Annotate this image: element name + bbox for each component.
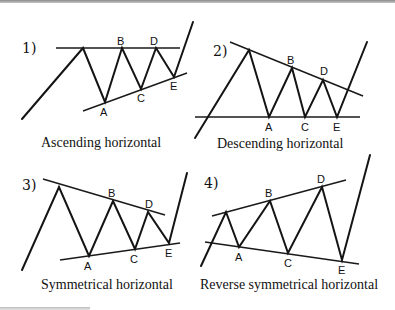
support-line [60, 243, 180, 260]
point-c-label: C [137, 92, 145, 104]
triangle-patterns-diagram: 1) A B C D E Ascending horizontal 2) A B… [0, 0, 395, 310]
point-c-label: C [284, 257, 292, 269]
point-b-label: B [287, 54, 294, 66]
point-e-label: E [333, 121, 340, 133]
panel-caption: Descending horizontal [217, 136, 343, 151]
point-e-label: E [170, 80, 177, 92]
point-a-label: A [100, 106, 108, 118]
point-a-label: A [235, 251, 243, 263]
panel-number: 3) [22, 177, 36, 193]
panel-caption: Ascending horizontal [41, 135, 161, 150]
point-d-label: D [150, 35, 158, 47]
point-e-label: E [338, 264, 345, 276]
support-line [83, 73, 187, 111]
price-path [22, 22, 193, 119]
panel-number: 2) [213, 43, 227, 59]
panel-caption: Symmetrical horizontal [41, 277, 173, 292]
point-c-label: C [130, 253, 138, 265]
panel-number: 4) [204, 175, 218, 191]
point-a-label: A [84, 260, 92, 272]
point-e-label: E [165, 247, 172, 259]
point-d-label: D [145, 198, 153, 210]
point-c-label: C [301, 121, 309, 133]
point-d-label: D [320, 65, 328, 77]
panel-ascending-horizontal: 1) A B C D E Ascending horizontal [22, 22, 193, 150]
panel-descending-horizontal: 2) A B C D E Descending horizontal [195, 42, 367, 151]
point-d-label: D [317, 173, 325, 185]
price-path [22, 173, 187, 270]
price-path [201, 155, 370, 266]
panel-reverse-symmetrical-horizontal: 4) A B C D E Reverse symmetrical horizon… [200, 155, 378, 292]
panel-symmetrical-horizontal: 3) A B C D E Symmetrical horizontal [22, 173, 187, 292]
point-b-label: B [117, 35, 124, 47]
point-a-label: A [265, 121, 273, 133]
support-line [205, 242, 359, 264]
point-b-label: B [108, 187, 115, 199]
panel-caption: Reverse symmetrical horizontal [200, 277, 378, 292]
point-b-label: B [265, 187, 272, 199]
panel-number: 1) [22, 40, 36, 56]
